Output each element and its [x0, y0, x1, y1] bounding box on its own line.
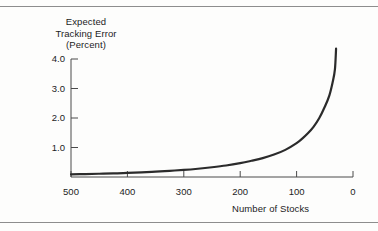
y-axis-title-line-1: Expected — [38, 16, 134, 28]
tracking-error-curve — [71, 49, 336, 175]
x-axis-tick-label: 200 — [223, 187, 257, 197]
x-axis-title: Number of Stocks — [232, 203, 309, 215]
y-axis-title-line-3: (Percent) — [38, 39, 134, 51]
y-axis-title: Expected Tracking Error (Percent) — [38, 16, 134, 51]
x-axis-tick-label: 0 — [336, 187, 370, 197]
y-axis-tick-label: 1.0 — [35, 143, 65, 153]
y-axis-tick-label: 2.0 — [35, 113, 65, 123]
y-axis-tick-label: 4.0 — [35, 54, 65, 64]
x-axis-tick-label: 300 — [167, 187, 201, 197]
x-axis-tick-label: 500 — [54, 187, 88, 197]
y-axis-tick-label: 3.0 — [35, 84, 65, 94]
y-axis-ticks — [71, 59, 78, 148]
y-axis-title-line-2: Tracking Error — [38, 28, 134, 40]
x-axis-tick-label: 400 — [110, 187, 144, 197]
axes — [71, 59, 353, 177]
x-axis-tick-label: 100 — [280, 187, 314, 197]
chart-figure: Expected Tracking Error (Percent) Number… — [0, 0, 378, 231]
